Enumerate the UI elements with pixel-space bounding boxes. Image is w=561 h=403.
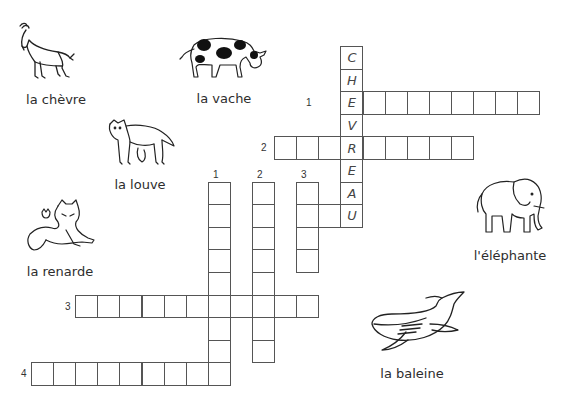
solution-letter-cell: V (340, 114, 363, 138)
cow-illustration (180, 33, 270, 87)
solution-letter-cell: U (340, 204, 363, 228)
grid-cell[interactable] (296, 182, 319, 206)
grid-cell[interactable] (208, 317, 231, 341)
grid-cell[interactable] (274, 295, 297, 319)
grid-cell[interactable] (142, 362, 165, 386)
grid-cell[interactable] (75, 362, 98, 386)
grid-cell[interactable] (97, 362, 120, 386)
solution-letter-cell: A (340, 182, 363, 206)
grid-cell[interactable] (142, 295, 165, 319)
grid-cell[interactable] (363, 136, 386, 160)
grid-cell[interactable] (31, 362, 54, 386)
grid-cell[interactable] (119, 295, 142, 319)
whale-illustration (370, 288, 470, 364)
label-elephant: l'éléphante (474, 248, 547, 263)
grid-cell[interactable] (451, 91, 474, 115)
fox-illustration (22, 200, 102, 256)
grid-cell[interactable] (252, 317, 275, 341)
grid-cell[interactable] (473, 91, 496, 115)
grid-cell[interactable] (164, 295, 187, 319)
grid-cell[interactable] (164, 362, 187, 386)
fox-icon (22, 200, 102, 252)
grid-cell[interactable] (208, 227, 231, 251)
grid-cell[interactable] (296, 295, 319, 319)
solution-letter-cell: H (340, 69, 363, 93)
grid-cell[interactable] (296, 249, 319, 273)
label-whale: la baleine (380, 366, 443, 381)
clue-number-down-2: 2 (257, 169, 263, 180)
grid-cell[interactable] (451, 136, 474, 160)
whale-icon (370, 288, 470, 360)
grid-cell[interactable] (252, 182, 275, 206)
grid-cell[interactable] (296, 227, 319, 251)
solution-letter-cell: E (340, 91, 363, 115)
grid-cell[interactable] (385, 136, 408, 160)
label-cow: la vache (197, 91, 252, 106)
label-fox: la renarde (27, 264, 93, 279)
grid-cell[interactable] (318, 136, 341, 160)
grid-cell[interactable] (495, 91, 518, 115)
grid-cell[interactable] (252, 227, 275, 251)
clue-number-down-1: 1 (213, 169, 219, 180)
grid-cell[interactable] (53, 362, 76, 386)
grid-cell[interactable] (186, 295, 209, 319)
grid-cell[interactable] (208, 204, 231, 228)
clue-number-across-1: 1 (306, 97, 312, 108)
grid-cell[interactable] (363, 91, 386, 115)
grid-cell[interactable] (407, 136, 430, 160)
grid-cell[interactable] (119, 362, 142, 386)
grid-cell[interactable] (252, 249, 275, 273)
grid-cell[interactable] (385, 91, 408, 115)
grid-cell[interactable] (208, 340, 231, 364)
grid-cell[interactable] (208, 249, 231, 273)
clue-number-across-2: 2 (261, 142, 267, 153)
grid-cell[interactable] (208, 295, 231, 319)
grid-cell[interactable] (208, 182, 231, 206)
grid-cell[interactable] (407, 91, 430, 115)
goat-illustration (10, 20, 80, 94)
clue-number-across-4: 4 (21, 368, 27, 379)
grid-cell[interactable] (318, 204, 341, 228)
grid-cell[interactable] (274, 136, 297, 160)
grid-cell[interactable] (208, 362, 231, 386)
solution-letter-cell: R (340, 136, 363, 160)
clue-number-down-3: 3 (301, 169, 307, 180)
cow-icon (180, 33, 270, 83)
solution-letter-cell: C (340, 46, 363, 70)
grid-cell[interactable] (75, 295, 98, 319)
grid-cell[interactable] (429, 91, 452, 115)
grid-cell[interactable] (208, 272, 231, 296)
label-wolf: la louve (114, 177, 165, 192)
grid-cell[interactable] (252, 340, 275, 364)
grid-cell[interactable] (517, 91, 540, 115)
grid-cell[interactable] (97, 295, 120, 319)
elephant-illustration (472, 176, 550, 242)
elephant-icon (472, 176, 550, 238)
grid-cell[interactable] (429, 136, 452, 160)
solution-letter-cell: E (340, 159, 363, 183)
grid-cell[interactable] (186, 362, 209, 386)
wolf-icon (108, 118, 178, 173)
grid-cell[interactable] (252, 272, 275, 296)
wolf-illustration (108, 118, 178, 177)
clue-number-across-3: 3 (65, 301, 71, 312)
grid-cell[interactable] (296, 136, 319, 160)
grid-cell[interactable] (252, 295, 275, 319)
goat-icon (10, 20, 80, 90)
grid-cell[interactable] (252, 204, 275, 228)
grid-cell[interactable] (230, 295, 253, 319)
grid-cell[interactable] (296, 204, 319, 228)
label-goat: la chèvre (26, 92, 86, 107)
